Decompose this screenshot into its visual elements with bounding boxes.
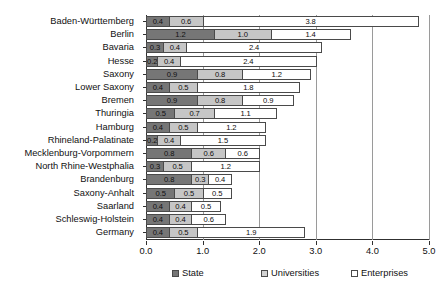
bar-segment-universities: 0.6: [169, 16, 204, 27]
x-tick-label: 2.0: [239, 245, 279, 257]
bar-segment-value: 0.5: [178, 83, 188, 92]
stacked-bar: 0.50.71.1: [146, 108, 277, 119]
bar-segment-enterprises: 1.2: [197, 122, 266, 133]
bar-segment-value: 1.8: [243, 83, 253, 92]
bar-segment-state: 0.9: [146, 95, 198, 106]
bar-row: Germany0.40.51.9: [146, 226, 429, 239]
stacked-bar: 0.30.51.2: [146, 161, 260, 172]
bar-segment-value: 0.5: [172, 162, 182, 171]
bar-segment-state: 0.3: [146, 42, 164, 53]
bar-segment-state: 1.2: [146, 29, 215, 40]
bar-row: Berlin1.21.01.4: [146, 28, 429, 41]
bar-segment-value: 0.9: [167, 70, 177, 79]
bar-segment-universities: 0.5: [169, 122, 198, 133]
x-tick-label: 3.0: [296, 245, 336, 257]
stacked-bar: 0.30.42.4: [146, 42, 322, 53]
bar-segment-value: 0.4: [153, 228, 163, 237]
legend-item-universities[interactable]: Universities: [261, 268, 319, 278]
bar-segment-state: 0.3: [146, 161, 164, 172]
category-label: Saxony: [0, 68, 134, 81]
bar-segment-value: 0.8: [215, 96, 225, 105]
bar-segment-value: 0.2: [147, 136, 157, 145]
category-label: Schleswig-Holstein: [0, 213, 134, 226]
bar-segment-value: 1.1: [240, 109, 250, 118]
bar-row: Hesse0.20.42.4: [146, 55, 429, 68]
legend-item-enterprises[interactable]: Enterprises: [351, 268, 408, 278]
bar-segment-value: 0.6: [238, 149, 248, 158]
legend-label: Enterprises: [361, 268, 408, 278]
bar-segment-value: 0.6: [204, 149, 214, 158]
bar-segment-value: 1.2: [272, 70, 282, 79]
category-label: Lower Saxony: [0, 81, 134, 94]
bar-segment-value: 0.4: [215, 175, 225, 184]
bar-segment-universities: 0.4: [157, 56, 181, 67]
bar-segment-value: 3.8: [305, 17, 315, 26]
stacked-bar: 0.80.60.6: [146, 148, 260, 159]
bar-row: Saarland0.40.40.5: [146, 200, 429, 213]
bar-row: Rhineland-Palatinate0.20.41.5: [146, 134, 429, 147]
bar-segment-value: 1.4: [305, 30, 315, 39]
bar-segment-universities: 0.4: [169, 214, 193, 225]
bar-segment-universities: 0.8: [197, 69, 243, 80]
bar-segment-universities: 0.3: [191, 174, 209, 185]
bar-segment-value: 0.9: [167, 96, 177, 105]
bar-segment-value: 2.4: [249, 43, 259, 52]
bar-segment-value: 0.9: [263, 96, 273, 105]
bar-segment-value: 1.2: [226, 123, 236, 132]
category-label: Saarland: [0, 200, 134, 213]
stacked-bar: 0.90.81.2: [146, 69, 311, 80]
bar-row: Baden-Württemberg0.40.63.8: [146, 15, 429, 28]
bar-segment-universities: 0.8: [197, 95, 243, 106]
category-label: Hesse: [0, 55, 134, 68]
bar-segment-value: 0.6: [181, 17, 191, 26]
bar-segment-state: 0.9: [146, 69, 198, 80]
bar-segment-universities: 0.4: [163, 42, 187, 53]
category-label: Brandenburg: [0, 173, 134, 186]
legend-swatch-state: [172, 270, 179, 277]
stacked-bar: 0.40.51.8: [146, 82, 300, 93]
x-tick-label: 5.0: [409, 245, 438, 257]
bar-row: Saxony-Anhalt0.50.50.5: [146, 187, 429, 200]
bar-segment-state: 0.5: [146, 108, 175, 119]
stacked-bar: 1.21.01.4: [146, 29, 351, 40]
stacked-bar-chart: Baden-Württemberg0.40.63.8Berlin1.21.01.…: [0, 0, 438, 292]
x-axis: 0.01.02.03.04.05.0: [146, 241, 429, 257]
bar-segment-value: 0.5: [156, 189, 166, 198]
category-label: Mecklenburg-Vorpommern: [0, 147, 134, 160]
bar-segment-state: 0.4: [146, 82, 170, 93]
bar-segment-universities: 0.4: [157, 135, 181, 146]
bar-segment-value: 0.4: [164, 57, 174, 66]
legend-swatch-universities: [261, 270, 268, 277]
bar-row: Mecklenburg-Vorpommern0.80.60.6: [146, 147, 429, 160]
bar-segment-enterprises: 0.9: [242, 95, 294, 106]
category-label: Bavaria: [0, 41, 134, 54]
bar-segment-value: 0.4: [153, 123, 163, 132]
bar-segment-enterprises: 2.4: [180, 56, 317, 67]
bar-segment-value: 0.3: [195, 175, 205, 184]
bar-segment-value: 0.4: [153, 215, 163, 224]
bar-segment-state: 0.4: [146, 214, 170, 225]
bar-segment-value: 0.4: [153, 83, 163, 92]
bar-segment-enterprises: 0.6: [225, 148, 260, 159]
plot-area: Baden-Württemberg0.40.63.8Berlin1.21.01.…: [146, 15, 429, 240]
bar-segment-enterprises: 0.6: [191, 214, 226, 225]
category-label: Germany: [0, 226, 134, 239]
bar-row: Saxony0.90.81.2: [146, 68, 429, 81]
bar-segment-universities: 0.5: [174, 188, 203, 199]
bar-segment-value: 0.8: [164, 149, 174, 158]
category-label: Hamburg: [0, 121, 134, 134]
bar-segment-value: 0.5: [212, 189, 222, 198]
bar-row: Bremen0.90.80.9: [146, 94, 429, 107]
bar-segment-value: 1.0: [238, 30, 248, 39]
bar-segment-value: 0.6: [204, 215, 214, 224]
bar-row: Lower Saxony0.40.51.8: [146, 81, 429, 94]
legend-label: Universities: [271, 268, 319, 278]
legend-item-state[interactable]: State: [172, 268, 204, 278]
category-label: Berlin: [0, 28, 134, 41]
x-tick-label: 4.0: [352, 245, 392, 257]
bar-segment-universities: 0.7: [174, 108, 215, 119]
bar-row: Bavaria0.30.42.4: [146, 41, 429, 54]
bar-segment-value: 0.5: [156, 109, 166, 118]
bar-segment-value: 0.8: [164, 175, 174, 184]
category-label: Baden-Württemberg: [0, 15, 134, 28]
